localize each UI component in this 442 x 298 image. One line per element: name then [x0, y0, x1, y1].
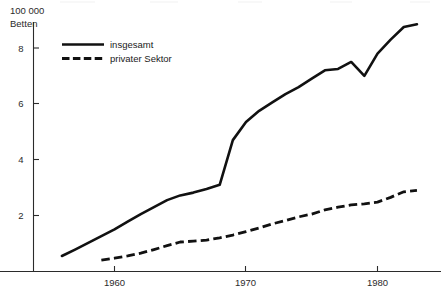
y-tick-label-4: 4 — [18, 154, 23, 165]
legend-label-insgesamt: insgesamt — [110, 39, 154, 50]
x-tick-label-1980: 1980 — [367, 277, 388, 288]
y-tick-label-8: 8 — [18, 43, 23, 54]
line-chart: 100 000 Betten 8 6 4 2 1960 1970 1980 — [0, 0, 442, 298]
x-tick-label-1970: 1970 — [235, 277, 256, 288]
y-axis-unit-line1: 100 000 — [10, 5, 44, 16]
legend-label-privater-sektor: privater Sektor — [110, 53, 172, 64]
x-tick-label-1960: 1960 — [104, 277, 125, 288]
chart-container: 100 000 Betten 8 6 4 2 1960 1970 1980 — [0, 0, 442, 298]
y-tick-label-6: 6 — [18, 98, 23, 109]
y-tick-label-2: 2 — [18, 210, 23, 221]
x-tick-group: 1960 1970 1980 — [104, 266, 388, 288]
chart-legend: insgesamt privater Sektor — [62, 39, 172, 64]
series-line-privater-sektor — [101, 190, 417, 260]
y-tick-group: 8 6 4 2 — [18, 43, 39, 222]
